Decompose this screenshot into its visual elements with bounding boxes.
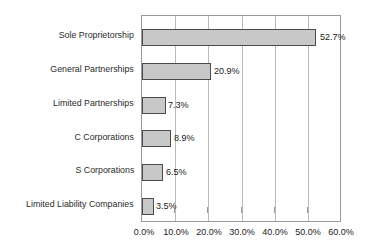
gridline-10 [175,16,176,221]
gridline-50 [308,16,309,221]
xtick-label-50: 50.0% [295,226,321,238]
value-label-c-corporations: 8.9% [174,129,195,146]
bar-c-corporations [142,130,171,147]
xtick-mark-20 [207,207,208,213]
xtick-mark-0 [141,207,142,213]
xtick-mark-40 [274,207,275,213]
value-label-s-corporations: 6.5% [166,163,187,180]
xtick-label-0: 0.0% [134,226,155,238]
xtick-label-40: 40.0% [262,226,288,238]
category-label-sole-proprietorship: Sole Proprietorship [59,29,134,41]
value-label-limited-partnerships: 7.3% [168,96,189,113]
xtick-label-60: 60.0% [328,226,354,238]
bar-chart: Sole Proprietorship General Partnerships… [0,0,370,250]
gridline-40 [275,16,276,221]
gridline-20 [208,16,209,221]
bar-s-corporations [142,164,163,181]
bar-general-partnerships [142,63,211,80]
category-label-s-corporations: S Corporations [75,164,134,176]
xtick-label-20: 20.0% [196,226,222,238]
xtick-mark-60 [340,207,341,213]
plot-area [141,15,341,222]
category-label-limited-partnerships: Limited Partnerships [53,97,134,109]
value-label-general-partnerships: 20.9% [214,62,240,79]
xtick-mark-30 [241,207,242,213]
xtick-label-30: 30.0% [229,226,255,238]
xtick-mark-50 [307,207,308,213]
value-label-sole-proprietorship: 52.7% [320,28,346,45]
category-label-c-corporations: C Corporations [75,131,134,143]
category-label-limited-liability-companies: Limited Liability Companies [26,198,134,210]
gridline-30 [242,16,243,221]
category-label-general-partnerships: General Partnerships [51,63,134,75]
bar-sole-proprietorship [142,29,316,46]
bar-limited-liability-companies [142,198,154,215]
bar-limited-partnerships [142,97,166,114]
xtick-label-10: 10.0% [163,226,189,238]
xtick-mark-10 [174,207,175,213]
